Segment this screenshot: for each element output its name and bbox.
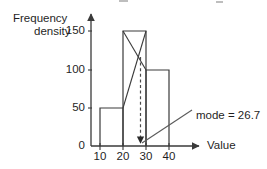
construction-line-a bbox=[123, 31, 146, 70]
bar-10-20 bbox=[100, 108, 123, 146]
y-tick-label-100: 100 bbox=[59, 64, 85, 76]
x-axis-label: Value bbox=[207, 140, 236, 152]
mode-annotation-label: mode = 26.7 bbox=[196, 110, 260, 122]
x-tick-label-20: 20 bbox=[112, 151, 134, 163]
y-tick-label-50: 50 bbox=[59, 102, 85, 114]
bar-20-30 bbox=[123, 31, 146, 146]
y-axis-label-line1: Frequency bbox=[13, 13, 67, 25]
cropped-title-remnant bbox=[119, 0, 223, 3]
bar-30-40 bbox=[146, 70, 169, 146]
construction-line-b bbox=[123, 31, 146, 108]
x-tick-label-10: 10 bbox=[89, 151, 111, 163]
y-tick-label-150: 150 bbox=[59, 25, 85, 37]
y-tick-label-0: 0 bbox=[59, 140, 85, 152]
mode-construction-lines bbox=[123, 31, 146, 108]
x-tick-label-30: 30 bbox=[135, 151, 157, 163]
x-tick-label-40: 40 bbox=[158, 151, 180, 163]
histogram-figure: Frequency density 150 100 50 0 10 20 30 … bbox=[0, 0, 267, 169]
histogram-bars bbox=[100, 31, 169, 146]
mode-leader-line bbox=[142, 110, 192, 143]
